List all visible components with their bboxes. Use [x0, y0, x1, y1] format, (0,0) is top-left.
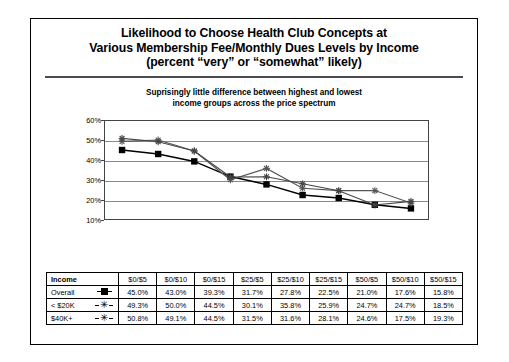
table-column-header: $0/$5	[119, 273, 157, 286]
table-column-header: $50/$5	[348, 273, 386, 286]
series-label: < $20K	[51, 301, 75, 310]
table-cell: 24.7%	[386, 299, 424, 312]
table-column-header: $50/$10	[386, 273, 424, 286]
subtitle-line-2: income groups across the price spectrum	[31, 98, 477, 109]
table-cell: 24.7%	[348, 299, 386, 312]
table-column-header: $0/$10	[157, 273, 195, 286]
series-label: Overall	[51, 288, 74, 297]
star-marker	[263, 165, 270, 172]
star-marker	[155, 139, 162, 146]
series-layer	[104, 120, 429, 220]
table-cell: 17.5%	[386, 312, 424, 325]
y-tick-label: 30%	[86, 177, 101, 184]
table-column-header: $25/$10	[271, 273, 309, 286]
table-cell: 21.0%	[348, 286, 386, 299]
star-marker	[299, 181, 306, 188]
y-tick-mark	[101, 140, 105, 141]
square-marker	[263, 181, 269, 187]
slide-frame: Likelihood to Choose Health Club Concept…	[30, 18, 478, 345]
table-row: < $20K✳49.3%50.0%44.5%30.1%35.8%25.9%24.…	[47, 299, 463, 312]
table-cell: 30.1%	[233, 299, 271, 312]
star-marker	[335, 188, 342, 195]
star-marker	[119, 135, 126, 142]
y-tick-label: 20%	[86, 197, 101, 204]
page-title: Likelihood to Choose Health Club Concept…	[31, 19, 477, 70]
table-cell: 27.8%	[271, 286, 309, 299]
title-line-2: Various Membership Fee/Monthly Dues Leve…	[41, 41, 467, 56]
title-divider	[45, 76, 463, 79]
y-tick-mark	[101, 220, 105, 221]
table-row-header: < $20K✳	[47, 299, 119, 312]
title-line-1: Likelihood to Choose Health Club Concept…	[41, 26, 467, 41]
square-marker	[191, 158, 197, 164]
star-marker-icon: ✳	[97, 301, 111, 309]
line-chart: 60%50%40%30%20%10%	[31, 116, 477, 232]
data-table-container: Income $0/$5$0/$10$0/$15$25/$5$25/$10$25…	[46, 272, 463, 325]
y-tick-label: 40%	[86, 157, 101, 164]
table-cell: 24.6%	[348, 312, 386, 325]
table-cell: 31.6%	[271, 312, 309, 325]
table-cell: 39.3%	[195, 286, 233, 299]
table-cell: 43.0%	[157, 286, 195, 299]
table-row: Overall45.0%43.0%39.3%31.7%27.8%22.5%21.…	[47, 286, 463, 299]
table-column-header: $0/$15	[195, 273, 233, 286]
table-cell: 49.1%	[157, 312, 195, 325]
table-column-header: $25/$15	[310, 273, 348, 286]
y-tick-label: 10%	[86, 217, 101, 224]
chart-subtitle: Suprisingly little difference between hi…	[31, 87, 477, 109]
table-row: $40K+✳50.8%49.1%44.5%31.5%31.6%28.1%24.6…	[47, 312, 463, 325]
star-marker	[371, 187, 378, 194]
star-marker-icon: ✳	[97, 314, 111, 322]
table-cell: 31.5%	[233, 312, 271, 325]
table-cell: 44.5%	[195, 299, 233, 312]
table-cell: 19.3%	[424, 312, 462, 325]
table-header: Income $0/$5$0/$10$0/$15$25/$5$25/$10$25…	[47, 273, 463, 286]
table-cell: 18.5%	[424, 299, 462, 312]
table-cell: 50.8%	[119, 312, 157, 325]
table-cell: 44.5%	[195, 312, 233, 325]
table-header-row: Income $0/$5$0/$10$0/$15$25/$5$25/$10$25…	[47, 273, 463, 286]
subtitle-line-1: Suprisingly little difference between hi…	[31, 87, 477, 98]
table-cell: 31.7%	[233, 286, 271, 299]
table-cell: 15.8%	[424, 286, 462, 299]
y-axis: 60%50%40%30%20%10%	[67, 116, 101, 224]
table-row-header: $40K+✳	[47, 312, 119, 325]
square-marker-icon	[97, 288, 111, 296]
star-marker	[227, 174, 234, 181]
square-marker	[119, 147, 125, 153]
y-tick-label: 50%	[86, 137, 101, 144]
y-tick-mark	[101, 180, 105, 181]
star-marker	[408, 198, 415, 205]
y-tick-mark	[101, 160, 105, 161]
table-cell: 45.0%	[119, 286, 157, 299]
table-cell: 50.0%	[157, 299, 195, 312]
square-marker	[336, 195, 342, 201]
table-corner-header: Income	[47, 273, 119, 286]
table-body: Overall45.0%43.0%39.3%31.7%27.8%22.5%21.…	[47, 286, 463, 325]
star-marker	[191, 148, 198, 155]
y-tick-label: 60%	[86, 117, 101, 124]
table-column-header: $25/$5	[233, 273, 271, 286]
table-column-header: $50/$15	[424, 273, 462, 286]
table-cell: 49.3%	[119, 299, 157, 312]
table-cell: 25.9%	[310, 299, 348, 312]
table-cell: 28.1%	[310, 312, 348, 325]
y-tick-mark	[101, 120, 105, 121]
y-tick-mark	[101, 200, 105, 201]
table-row-header: Overall	[47, 286, 119, 299]
table-cell: 17.6%	[386, 286, 424, 299]
star-marker	[263, 174, 270, 181]
title-line-3: (percent “very” or “somewhat” likely)	[41, 55, 467, 70]
square-marker	[299, 192, 305, 198]
table-cell: 22.5%	[310, 286, 348, 299]
data-table: Income $0/$5$0/$10$0/$15$25/$5$25/$10$25…	[46, 272, 463, 325]
square-marker	[155, 151, 161, 157]
table-cell: 35.8%	[271, 299, 309, 312]
series-label: $40K+	[51, 314, 73, 323]
star-marker	[371, 202, 378, 209]
